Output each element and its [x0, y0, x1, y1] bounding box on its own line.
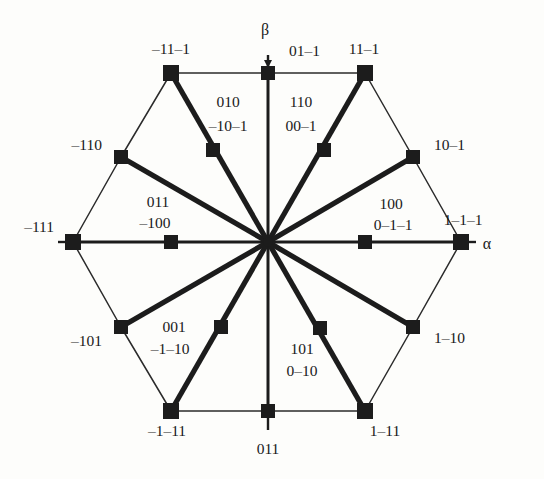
vertex-label--11-1: –11–1 — [151, 40, 190, 57]
sector-label-100-bottom: 0–1–1 — [374, 216, 413, 233]
midpoint-marker--100[interactable] — [164, 235, 178, 249]
vertex-marker-01-1[interactable] — [261, 66, 275, 80]
sector-label-101-bottom: 0–10 — [287, 362, 318, 379]
vertex-label-01-1: 01–1 — [289, 42, 320, 59]
midpoint-marker--10-1[interactable] — [206, 143, 220, 157]
hex-edge-left-lower — [73, 242, 121, 327]
vertex-label-11-1: 11–1 — [349, 40, 379, 57]
sector-label-011-top: 011 — [147, 193, 170, 210]
hex-edge-lower-right — [365, 327, 413, 411]
vertex-label--1-11: –1–11 — [147, 422, 186, 439]
sector-label-100-top: 100 — [379, 195, 403, 212]
hex-edge-left-upper — [73, 157, 121, 242]
vertex-marker--110[interactable] — [114, 150, 128, 164]
sector-label-010-bottom: –10–1 — [208, 117, 248, 134]
sector-label-001-top: 001 — [162, 318, 185, 335]
vertex-marker--11-1[interactable] — [163, 65, 179, 81]
midpoint-marker-0-10[interactable] — [313, 321, 327, 335]
hex-edge-upper-left — [121, 73, 171, 157]
vertex-marker--1-11[interactable] — [163, 403, 179, 419]
hex-edge-right-upper — [413, 157, 461, 242]
vertex-label-1-10: 1–10 — [434, 329, 465, 346]
sector-label-001-bottom: –1–10 — [150, 340, 190, 357]
alpha-axis-label: α — [483, 235, 492, 252]
sector-label-110-bottom: 00–1 — [286, 117, 317, 134]
spoke-11-1 — [268, 73, 365, 242]
midpoint-marker--1-10[interactable] — [214, 320, 228, 334]
sector-label-011-bottom: –100 — [139, 214, 171, 231]
vertex-label-10-1: 10–1 — [434, 136, 465, 153]
vertex-label-011: 011 — [257, 440, 280, 457]
vertex-label--111: –111 — [23, 218, 54, 235]
hex-edge-right-lower — [413, 242, 461, 327]
vertex-marker-011[interactable] — [261, 404, 275, 418]
vertex-marker-1-11[interactable] — [357, 403, 373, 419]
midpoint-marker-0-1-1[interactable] — [358, 235, 372, 249]
sector-label-110-top: 110 — [290, 93, 313, 110]
hex-edge-upper-right — [365, 73, 413, 157]
vertex-marker-1-1-1[interactable] — [453, 234, 469, 250]
sector-label-101-top: 101 — [290, 340, 313, 357]
beta-axis-label: β — [261, 21, 269, 39]
hexagon-vector-diagram: β α –11–1 01–1 11–1 10–1 1–1–1 1–10 1–11… — [0, 0, 544, 479]
vertex-marker-1-10[interactable] — [406, 320, 420, 334]
vertex-marker-10-1[interactable] — [406, 150, 420, 164]
vertex-label-1-11: 1–11 — [370, 422, 400, 439]
vertex-label--101: –101 — [70, 332, 102, 349]
diagram-canvas: β α –11–1 01–1 11–1 10–1 1–1–1 1–10 1–11… — [0, 0, 544, 479]
sector-label-010-top: 010 — [216, 93, 240, 110]
vertex-label--110: –110 — [71, 136, 103, 153]
vertex-marker-11-1[interactable] — [357, 65, 373, 81]
midpoint-marker-00-1[interactable] — [317, 143, 331, 157]
origin-marker — [263, 237, 273, 247]
vertex-label-1-1-1: 1–1–1 — [444, 211, 483, 228]
vertex-marker--101[interactable] — [114, 320, 128, 334]
vertex-marker--111[interactable] — [65, 234, 81, 250]
